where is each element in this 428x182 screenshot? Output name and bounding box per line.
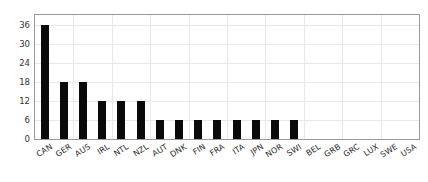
x-axis-tick-label: LUX	[363, 143, 381, 158]
x-axis-tick-label: USA	[400, 143, 419, 159]
x-axis-tick-label: ITA	[231, 143, 246, 156]
x-axis-tick-label: DNK	[169, 143, 188, 159]
x-axis-tick-label: NOR	[265, 143, 285, 159]
x-axis-tick-label: NZL	[132, 143, 150, 158]
x-axis-tick-label: AUS	[74, 143, 92, 159]
x-axis-tick-label: FRA	[209, 143, 226, 158]
bar-chart: 061218243036 CANGERAUSIRLNTLNZLAUTDNKFIN…	[0, 0, 428, 182]
x-axis-tick-label: GRB	[323, 143, 342, 159]
x-axis-tick-label: JPN	[249, 143, 265, 157]
x-axis-tick-label: CAN	[35, 143, 54, 159]
x-axis-tick-label: BEL	[305, 143, 322, 158]
x-axis-tick-label: AUT	[151, 143, 169, 159]
x-axis-labels: CANGERAUSIRLNTLNZLAUTDNKFINFRAITAJPNNORS…	[0, 0, 428, 182]
x-axis-tick-label: GER	[54, 143, 73, 159]
x-axis-tick-label: SWI	[286, 143, 304, 158]
x-axis-tick-label: FIN	[192, 143, 207, 157]
x-axis-tick-label: SWE	[380, 143, 400, 160]
x-axis-tick-label: NTL	[113, 143, 131, 158]
x-axis-tick-label: IRL	[96, 143, 111, 157]
x-axis-tick-label: GRC	[342, 143, 361, 159]
